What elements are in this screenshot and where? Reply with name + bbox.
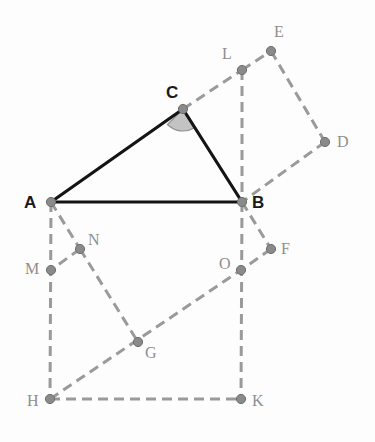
point-label-o: O [219,256,231,272]
vertex-point-g[interactable] [133,337,142,346]
point-label-k: K [252,393,264,409]
point-label-n: N [88,232,100,248]
vertex-point-m[interactable] [46,265,55,274]
point-label-m: M [25,261,39,277]
point-label-h: H [27,393,39,409]
vertex-point-c[interactable] [178,104,187,113]
vertex-point-a[interactable] [46,197,55,206]
point-label-d: D [337,134,349,150]
dashed-segments-group [50,51,325,399]
point-label-g: G [145,345,157,361]
vertex-point-f[interactable] [266,244,275,253]
segment-C-B [183,109,242,202]
vertex-point-e[interactable] [266,46,275,55]
vertex-point-d[interactable] [320,137,329,146]
segment-E-D [271,51,325,142]
vertex-point-k[interactable] [236,394,245,403]
segment-H-O [50,270,241,399]
geometry-canvas [0,0,375,442]
solid-segments-group [51,109,242,202]
vertex-dots-group [45,46,329,403]
vertex-point-l[interactable] [237,65,246,74]
point-label-e: E [274,24,284,40]
segment-L-E [242,51,271,70]
segment-A-C [51,109,183,202]
point-label-f: F [281,241,290,257]
geometry-figure: ABCLEDFOKHGMN [0,0,375,442]
point-label-l: L [222,46,232,62]
point-label-a: A [24,194,36,211]
point-label-c: C [166,84,178,101]
segment-C-L [183,70,242,109]
vertex-point-b[interactable] [237,197,246,206]
segment-A-H [50,202,51,399]
vertex-point-n[interactable] [75,244,84,253]
segment-N-G [80,249,138,342]
segment-N-M [51,249,80,270]
segment-A-N [51,202,80,249]
segment-B-K [241,202,242,399]
segment-F-O [241,249,271,270]
point-label-b: B [252,194,264,211]
vertex-point-h[interactable] [45,394,54,403]
vertex-point-o[interactable] [236,265,245,274]
